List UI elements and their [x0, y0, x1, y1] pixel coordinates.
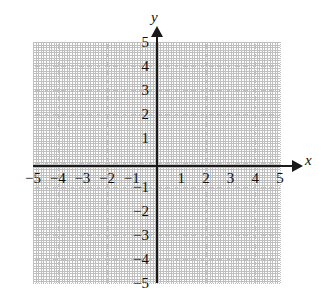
grid-line-vertical	[206, 42, 207, 283]
y-tick-label: 4	[142, 59, 150, 74]
y-tick-label: 2	[142, 107, 150, 122]
grid-line-vertical	[255, 42, 256, 283]
x-tick-label: 2	[202, 171, 210, 186]
x-tick-label: −3	[74, 171, 90, 186]
y-tick-label: −1	[133, 179, 149, 194]
x-tick-label: −4	[50, 171, 66, 186]
y-tick-label: −5	[133, 276, 149, 291]
x-tick-label: 4	[252, 171, 260, 186]
grid-line-vertical	[181, 42, 182, 283]
y-tick-label: −3	[133, 227, 149, 242]
y-axis-label: y	[151, 10, 158, 25]
y-axis-line	[156, 29, 158, 283]
y-tick-label: 1	[142, 131, 150, 146]
grid-line-vertical	[280, 42, 281, 283]
y-tick-label: −4	[133, 251, 149, 266]
y-axis-arrow-icon	[151, 26, 163, 37]
x-axis-label: x	[305, 153, 312, 168]
y-tick-label: −2	[133, 203, 149, 218]
y-tick-label: 5	[142, 35, 150, 50]
x-tick-label: 3	[227, 171, 235, 186]
x-axis-line	[33, 165, 299, 167]
x-tick-label: −2	[99, 171, 115, 186]
grid-line-horizontal	[33, 283, 280, 284]
x-tick-label: 1	[177, 171, 185, 186]
x-tick-label: −5	[25, 171, 41, 186]
x-axis-arrow-icon	[292, 160, 303, 172]
y-tick-label: 3	[142, 83, 150, 98]
grid-line-vertical	[231, 42, 232, 283]
x-tick-label: 5	[276, 171, 284, 186]
coordinate-plane-figure: x y −5−4−3−2−112345 54321−1−2−3−4−5	[0, 0, 322, 298]
